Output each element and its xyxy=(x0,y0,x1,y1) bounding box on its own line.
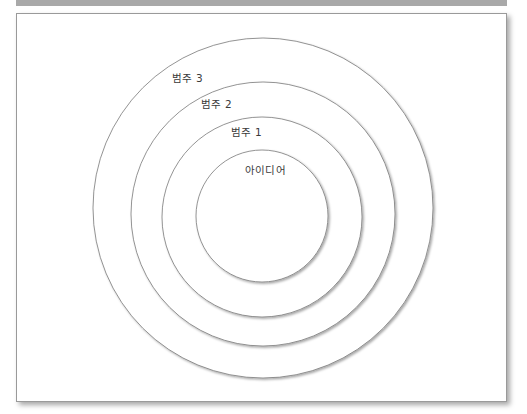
label-idea: 아이디어 xyxy=(245,162,286,177)
label-category-1: 범주 1 xyxy=(231,124,262,139)
label-category-3: 범주 3 xyxy=(172,70,203,85)
concentric-circles-diagram xyxy=(0,0,527,414)
label-category-2: 범주 2 xyxy=(201,96,232,111)
